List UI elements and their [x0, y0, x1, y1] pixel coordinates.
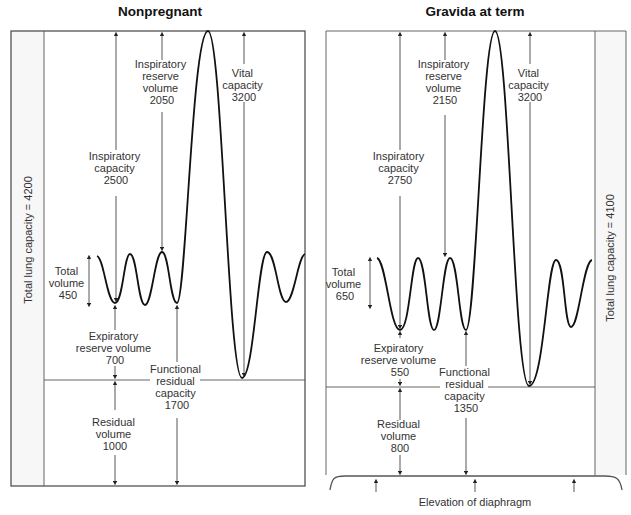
expiratory-reserve-volume-label: Expiratory reserve volume 700 [76, 330, 154, 366]
inspiratory-reserve-volume-label: Inspiratory reserve volume 2150 [418, 58, 472, 106]
expiratory-reserve-volume-label: Expiratory reserve volume 550 [361, 342, 439, 378]
panel-nonpregnant: Nonpregnant Total lung capacity = 4200 I… [11, 4, 305, 486]
panel-title: Nonpregnant [118, 4, 202, 19]
total-volume-label: Total volume 650 [326, 266, 365, 302]
spirogram-wave [97, 31, 305, 378]
diaphragm-brace [330, 476, 622, 490]
panel-gravida-at-term: Gravida at term Total lung capacity = 41… [326, 4, 626, 508]
residual-volume-label: Residual volume 1000 [92, 416, 138, 452]
diaphragm-elevation-label: Elevation of diaphragm [419, 496, 532, 508]
spirogram-wave [377, 31, 592, 386]
total-lung-capacity-label: Total lung capacity = 4100 [604, 194, 616, 322]
inspiratory-reserve-volume-label: Inspiratory reserve volume 2050 [135, 58, 189, 106]
panel-title: Gravida at term [425, 4, 524, 19]
residual-volume-label: Residual volume 800 [377, 418, 423, 454]
functional-residual-capacity-label: Functional residual capacity 1350 [439, 366, 493, 414]
total-volume-label: Total volume 450 [49, 265, 88, 301]
lung-volumes-diagram: Nonpregnant Total lung capacity = 4200 I… [0, 0, 631, 515]
functional-residual-capacity-label: Functional residual capacity 1700 [150, 363, 204, 411]
total-lung-capacity-label: Total lung capacity = 4200 [22, 176, 34, 304]
